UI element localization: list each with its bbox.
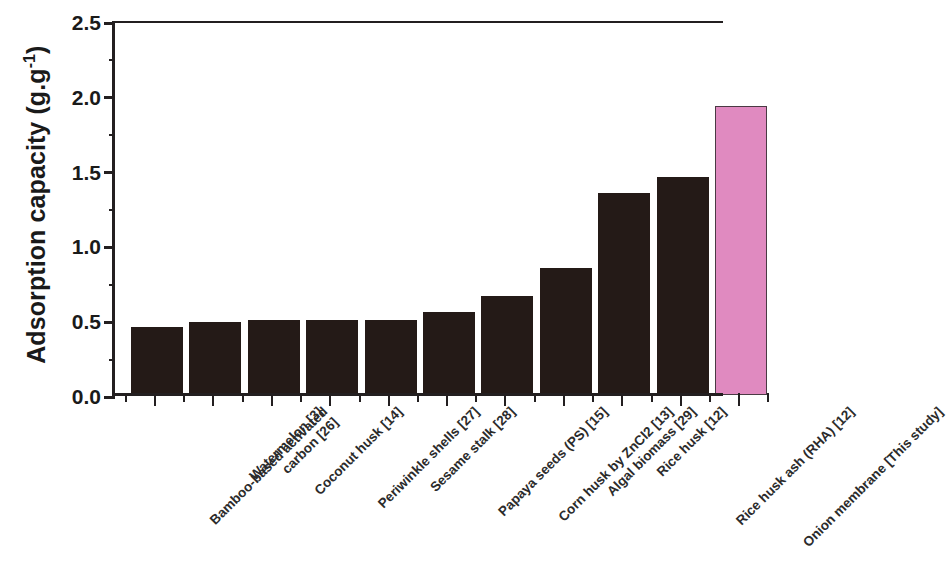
y-axis-title: Adsorption capacity (g.g-1): [21, 15, 50, 395]
y-axis-tick-minor: [109, 209, 115, 211]
y-axis-tick-minor: [109, 134, 115, 136]
y-axis-title-base: Adsorption capacity (g.g: [22, 68, 50, 363]
y-axis-title-exponent: -1: [21, 54, 38, 68]
y-axis-tick-label: 1.5: [72, 161, 101, 185]
y-axis-tick-major: [104, 246, 115, 249]
bar: [715, 106, 767, 395]
y-axis-tick-label: 0.0: [72, 385, 101, 409]
x-axis-tick-minor: [534, 393, 536, 402]
y-axis-tick-label: 2.5: [72, 11, 101, 35]
y-axis-title-close: ): [22, 45, 50, 53]
bar: [248, 320, 300, 395]
x-axis-tick-minor: [183, 393, 185, 402]
x-axis-tick-minor: [709, 393, 711, 402]
x-axis-tick-minor: [592, 393, 594, 402]
y-axis-tick-label: 1.0: [72, 235, 101, 259]
x-axis-tick-label: Papaya seeds (PS) [15]: [495, 404, 610, 519]
y-axis-tick-major: [104, 321, 115, 324]
x-axis-tick-minor: [125, 393, 127, 402]
y-axis-tick-label: 2.0: [72, 86, 101, 110]
bar: [189, 322, 241, 395]
x-axis-tick-minor: [475, 393, 477, 402]
x-axis-tick-minor: [651, 393, 653, 402]
y-axis-tick-minor: [109, 359, 115, 361]
bar: [306, 320, 358, 395]
x-axis-tick-label: Bamboo-based activatedcarbon [26]: [207, 404, 341, 538]
x-axis-tick-major: [271, 393, 273, 406]
x-axis-tick-label-line: Papaya seeds (PS) [15]: [495, 404, 610, 519]
x-axis-tick-major: [329, 393, 331, 406]
x-axis-tick-label: Onion membrane [This study]: [800, 404, 946, 550]
bar: [365, 320, 417, 395]
x-axis-tick-major: [212, 393, 214, 406]
x-axis-tick-minor: [300, 393, 302, 402]
y-axis-tick-major: [104, 171, 115, 174]
x-axis-tick-minor: [417, 393, 419, 402]
x-axis-tick-major: [388, 393, 390, 406]
x-axis-line: [112, 393, 723, 396]
x-axis-tick-major: [738, 393, 740, 406]
x-axis-tick-major: [154, 393, 156, 406]
x-axis-tick-major: [563, 393, 565, 406]
x-axis-tick-minor: [767, 393, 769, 402]
x-axis-tick-major: [680, 393, 682, 406]
bar: [598, 193, 650, 395]
bar: [423, 312, 475, 395]
bar: [481, 296, 533, 395]
y-axis-tick-minor: [109, 59, 115, 61]
x-axis-tick-minor: [359, 393, 361, 402]
x-axis-tick-major: [621, 393, 623, 406]
y-axis-tick-major: [104, 22, 115, 25]
bar: [131, 327, 183, 395]
y-axis-tick-minor: [109, 284, 115, 286]
y-axis-tick-major: [104, 96, 115, 99]
x-axis-tick-label-line: Onion membrane [This study]: [800, 404, 946, 550]
y-axis-tick-label: 0.5: [72, 310, 101, 334]
bar: [540, 268, 592, 395]
x-axis-tick-major: [446, 393, 448, 406]
plot-area: 0.00.51.01.52.02.5: [112, 21, 723, 395]
bar: [657, 177, 709, 395]
x-axis-tick-minor: [242, 393, 244, 402]
